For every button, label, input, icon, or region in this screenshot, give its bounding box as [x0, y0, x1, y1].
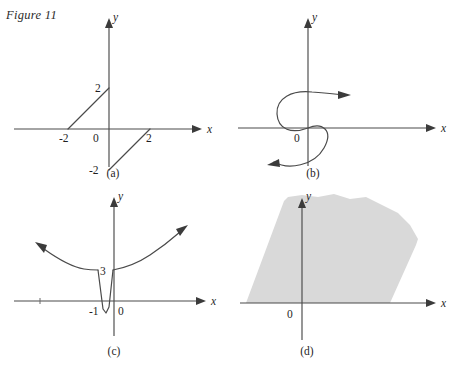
x-tick-label-neg2: -2 [59, 132, 69, 144]
x-axis-arrow-icon [426, 124, 436, 132]
y-tick-label-3: 3 [100, 265, 106, 277]
origin-label: 0 [287, 308, 293, 320]
x-axis-arrow-icon [192, 125, 202, 133]
y-axis-label: y [305, 190, 312, 203]
y-tick-label-neg2: -2 [89, 164, 99, 176]
y-tick-label-2: 2 [95, 82, 101, 94]
curve-arrow-end-icon [338, 91, 351, 99]
x-axis-group-c: x [14, 295, 217, 307]
x-axis-group-a: x [14, 123, 213, 135]
right-branch-group [113, 225, 188, 270]
x-axis-label: x [440, 122, 447, 134]
panel-letter-b: (b) [306, 167, 320, 180]
left-branch-curve [44, 249, 98, 270]
y-axis-label: y [112, 11, 119, 24]
line-segment-right [109, 129, 150, 170]
origin-label: 0 [93, 132, 99, 144]
x-axis-arrow-icon [196, 297, 206, 305]
s-curve-group [267, 91, 351, 167]
right-branch-curve [113, 232, 180, 270]
y-axis-arrow-icon [304, 18, 312, 28]
left-branch-group [35, 242, 98, 270]
panel-a-plot: x y -2 2 2 -2 0 (a) [0, 0, 229, 183]
panel-c: x y 3 -1 0 (c) [0, 183, 229, 366]
x-axis-group-b: x [238, 122, 447, 134]
origin-label: 0 [294, 132, 300, 144]
shaded-region [246, 194, 418, 303]
y-axis-arrow-icon [105, 18, 113, 28]
panel-c-plot: x y 3 -1 0 (c) [0, 183, 229, 366]
x-tick-label-neg1: -1 [89, 305, 99, 317]
x-tick-label-2: 2 [146, 132, 152, 144]
panel-letter-c: (c) [108, 345, 121, 358]
y-axis-group-a: y [105, 11, 119, 167]
left-branch-arrow-icon [35, 242, 47, 253]
y-axis-group-b: y [304, 11, 318, 166]
origin-label: 0 [118, 305, 124, 317]
panel-d-plot: x y 0 (d) [230, 183, 459, 366]
panel-d: x y 0 (d) [230, 183, 459, 366]
y-axis-label: y [117, 190, 124, 203]
x-axis-label: x [440, 297, 447, 309]
panel-b: x y 0 (b) [230, 0, 459, 183]
panel-letter-a: (a) [107, 167, 120, 180]
panel-letter-d: (d) [300, 345, 314, 358]
x-axis-label: x [206, 123, 213, 135]
line-segment-left [68, 88, 109, 129]
y-axis-label: y [311, 11, 318, 24]
panel-b-plot: x y 0 (b) [230, 0, 459, 183]
x-axis-arrow-icon [426, 299, 436, 307]
curve-arrow-start-icon [267, 159, 280, 167]
panel-a: x y -2 2 2 -2 0 (a) [0, 0, 229, 183]
x-axis-label: x [210, 295, 217, 307]
y-axis-arrow-icon [110, 197, 118, 207]
